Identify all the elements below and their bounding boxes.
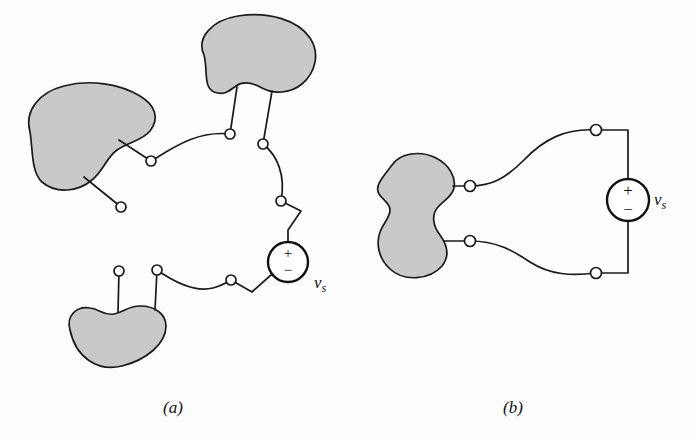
wire-topblob-right-leg — [263, 91, 272, 144]
caption-panel-a: (a) — [163, 398, 183, 418]
voltage-source-label-a: vs — [314, 273, 326, 296]
circuit-diagram-canvas: + − — [0, 0, 696, 442]
node-bottom-mid — [152, 265, 162, 275]
vs-a-base: v — [314, 273, 322, 292]
node-top-left — [225, 129, 235, 139]
left-network-blob — [29, 83, 155, 190]
node-upper-terminal — [465, 181, 476, 192]
wire-bottommid-to-bottomright — [157, 270, 231, 289]
node-bottom-right — [226, 275, 236, 285]
node-lower-terminal — [465, 236, 476, 247]
vs-b-base: v — [654, 190, 662, 209]
wire-lower-corner-to-source — [596, 221, 628, 273]
node-top-right — [258, 139, 268, 149]
wire-upper-s-curve — [470, 130, 596, 186]
bottom-network-blob — [69, 306, 166, 367]
caption-panel-b: (b) — [503, 398, 523, 418]
node-upper-corner — [591, 125, 602, 136]
vs-b-subscript: s — [662, 198, 667, 212]
node-mid-right — [276, 196, 286, 206]
source-b-plus-sign: + — [623, 181, 633, 200]
wire-upper-corner-to-source — [596, 130, 628, 179]
wire-leftblob-to-leftlower — [84, 177, 121, 207]
wire-bottomblob-left-leg — [118, 271, 119, 312]
voltage-source-label-b: vs — [654, 190, 666, 213]
node-bottom-left — [114, 266, 124, 276]
wire-topright-to-midright — [263, 144, 282, 201]
figure-root: + − — [0, 0, 696, 442]
wire-lower-s-curve — [470, 241, 596, 274]
wire-leftupper-to-topleft-curve — [151, 133, 230, 161]
source-a-plus-sign: + — [284, 245, 292, 261]
node-left-upper — [146, 156, 156, 166]
wire-midright-to-source-top — [281, 201, 301, 242]
panel-a: + − — [29, 15, 316, 368]
wire-topblob-left-leg — [230, 87, 237, 134]
vs-a-subscript: s — [322, 281, 327, 295]
wire-bottomright-to-source-bottom — [231, 274, 278, 292]
source-b-minus-sign: − — [623, 200, 633, 219]
node-left-lower — [116, 202, 126, 212]
source-a-minus-sign: − — [284, 262, 292, 278]
single-network-blob — [378, 154, 455, 278]
top-network-blob — [202, 15, 316, 94]
wire-bottomblob-right-leg — [155, 270, 157, 310]
panel-b: + − — [378, 125, 649, 279]
node-lower-corner — [591, 268, 602, 279]
